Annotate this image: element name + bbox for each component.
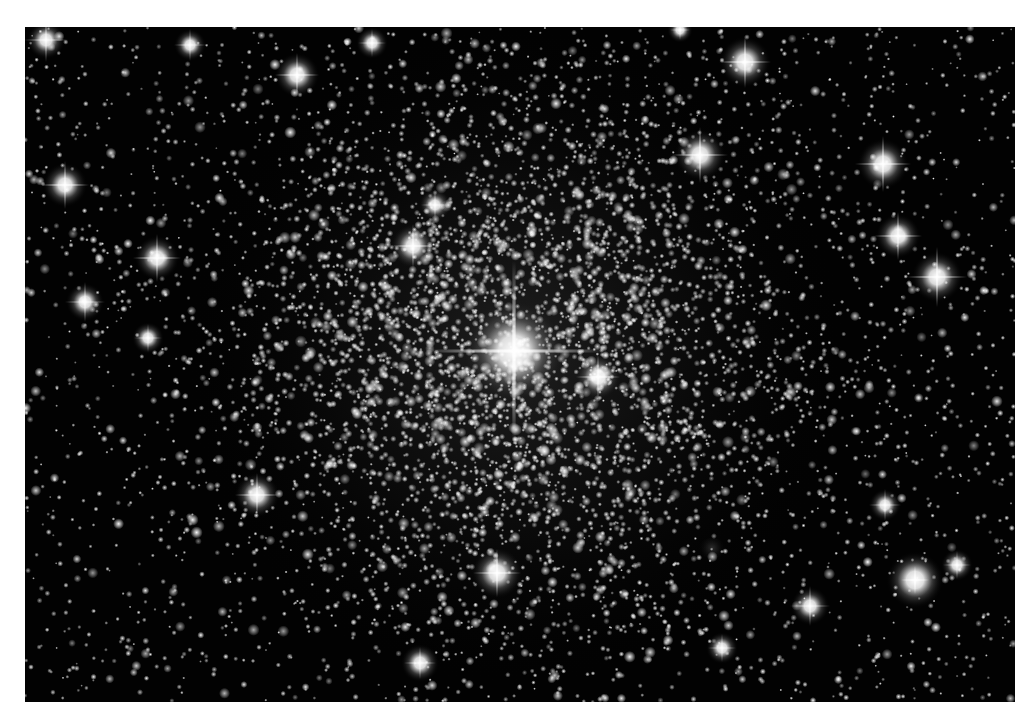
star-field-canvas	[25, 27, 1015, 702]
star-cluster-photo	[25, 27, 1015, 702]
